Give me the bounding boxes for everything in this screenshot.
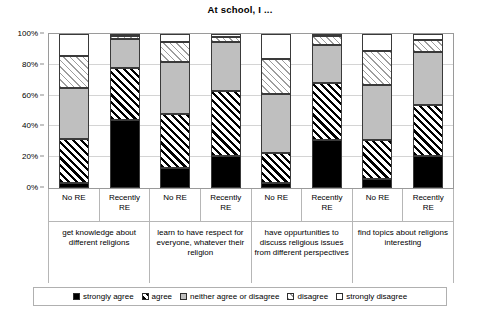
chart-title: At school, I ... <box>0 4 480 15</box>
bar-stack <box>160 34 190 188</box>
bar-stack <box>261 34 291 188</box>
plot-area <box>48 33 454 189</box>
series-label: No RE <box>62 193 86 203</box>
legend-item[interactable]: strongly agree <box>73 292 134 301</box>
legend-label: neither agree or disagree <box>190 292 279 301</box>
group-label-cell: have oppurtunities to discuss religious … <box>251 222 352 283</box>
series-label: No RE <box>265 193 289 203</box>
bar-segment <box>261 183 291 188</box>
bar-stack <box>362 34 392 188</box>
series-label-cell: Recently RE <box>402 189 454 222</box>
bar-segment <box>59 34 89 56</box>
bar-stack <box>413 34 443 188</box>
series-label: Recently RE <box>406 193 450 213</box>
bar-segment <box>110 36 140 39</box>
bar-segment <box>211 156 241 188</box>
y-axis-tick-mark <box>40 156 44 157</box>
y-axis-tick-label: 0% <box>26 183 38 192</box>
series-label: No RE <box>366 193 390 203</box>
y-axis-tick-mark <box>40 125 44 126</box>
series-label: Recently RE <box>204 193 248 213</box>
bar-stack <box>59 34 89 188</box>
legend-item[interactable]: disagree <box>287 292 328 301</box>
group-label-row: get knowledge about different religionsl… <box>48 222 454 283</box>
group-label: find topics about religions interesting <box>355 228 451 248</box>
series-label-row: No RERecently RENo RERecently RENo RERec… <box>48 189 454 222</box>
bar-segment <box>110 120 140 188</box>
bar-stack <box>110 34 140 188</box>
chart-legend: strongly agreeagreeneither agree or disa… <box>33 287 447 306</box>
y-axis-tick-mark <box>40 63 44 64</box>
y-axis-tick-label: 100% <box>18 29 38 38</box>
series-label-cell: No RE <box>352 189 403 222</box>
series-label-cell: No RE <box>149 189 200 222</box>
y-axis-tick-label: 20% <box>22 152 38 161</box>
y-axis-tick-mark <box>40 33 44 34</box>
series-label: Recently RE <box>305 193 349 213</box>
series-label: Recently RE <box>102 193 146 213</box>
bar-segment <box>59 183 89 188</box>
bar-segment <box>362 51 392 85</box>
legend-swatch-icon <box>336 293 343 300</box>
bar-segment <box>312 83 342 140</box>
bar-segment <box>362 34 392 51</box>
legend-swatch-icon <box>287 293 294 300</box>
group-label: have oppurtunities to discuss religious … <box>254 228 350 258</box>
chart-container: At school, I ... 0%20%40%60%80%100% No R… <box>0 0 480 318</box>
bar-segment <box>312 45 342 84</box>
legend-swatch-icon <box>142 293 149 300</box>
y-axis: 0%20%40%60%80%100% <box>0 33 44 189</box>
category-axis: No RERecently RENo RERecently RENo RERec… <box>48 189 454 283</box>
bar-segment <box>261 34 291 59</box>
group-label: get knowledge about different religions <box>51 228 147 248</box>
bar-segment <box>110 39 140 68</box>
bar-segment <box>261 94 291 153</box>
bar-segment <box>110 68 140 120</box>
legend-swatch-icon <box>180 293 187 300</box>
bar-segment <box>312 36 342 45</box>
y-axis-tick-label: 60% <box>22 90 38 99</box>
series-label-cell: Recently RE <box>200 189 251 222</box>
bar-segment <box>160 62 190 114</box>
legend-label: strongly disagree <box>346 292 407 301</box>
bar-segment <box>59 56 89 88</box>
y-axis-tick-mark <box>40 187 44 188</box>
y-axis-tick-label: 40% <box>22 121 38 130</box>
bar-segment <box>211 37 241 42</box>
group-label-cell: learn to have respect for everyone, what… <box>149 222 250 283</box>
bar-segment <box>160 114 190 168</box>
bar-segment <box>413 105 443 156</box>
y-axis-tick-mark <box>40 94 44 95</box>
bar-segment <box>211 42 241 91</box>
legend-label: disagree <box>297 292 328 301</box>
bar-stack <box>312 34 342 188</box>
bar-segment <box>362 140 392 179</box>
group-label-cell: find topics about religions interesting <box>352 222 454 283</box>
bar-segment <box>362 179 392 188</box>
group-label-cell: get knowledge about different religions <box>48 222 149 283</box>
y-axis-tick-label: 80% <box>22 59 38 68</box>
bar-segment <box>211 91 241 156</box>
legend-swatch-icon <box>73 293 80 300</box>
series-label: No RE <box>163 193 187 203</box>
series-label-cell: Recently RE <box>301 189 352 222</box>
bar-segment <box>413 156 443 188</box>
bar-segment <box>413 52 443 104</box>
bar-segment <box>413 40 443 52</box>
bar-segment <box>362 85 392 140</box>
legend-item[interactable]: neither agree or disagree <box>180 292 279 301</box>
bar-segment <box>59 139 89 184</box>
legend-label: agree <box>152 292 172 301</box>
bar-segment <box>160 42 190 62</box>
bar-segment <box>59 88 89 139</box>
bar-segment <box>413 34 443 40</box>
legend-item[interactable]: agree <box>142 292 172 301</box>
bar-segment <box>160 168 190 188</box>
legend-label: strongly agree <box>83 292 134 301</box>
legend-item[interactable]: strongly disagree <box>336 292 407 301</box>
bar-segment <box>261 153 291 184</box>
series-label-cell: Recently RE <box>99 189 150 222</box>
bar-segment <box>211 34 241 37</box>
group-label: learn to have respect for everyone, what… <box>152 228 248 258</box>
series-label-cell: No RE <box>48 189 99 222</box>
